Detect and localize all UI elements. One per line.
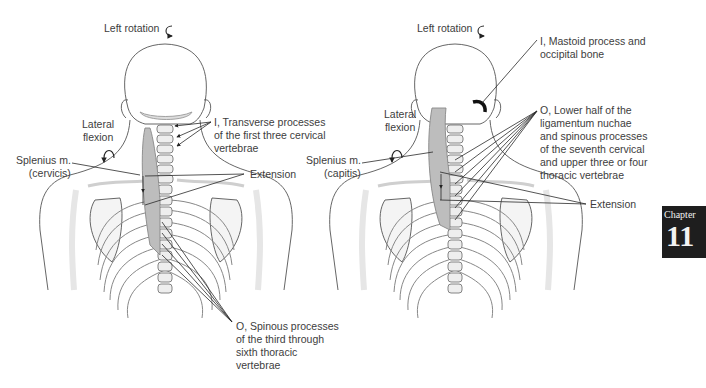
left-origin-label: O, Spinous processes of the third throug…	[236, 320, 339, 372]
curved-arrow-icon	[478, 26, 484, 36]
left-insertion-label: I, Transverse processes of the first thr…	[214, 116, 325, 155]
curved-arrow-icon	[166, 26, 172, 36]
left-figure	[40, 44, 293, 318]
splenius-capitis-muscle	[429, 108, 450, 230]
right-insertion-label: I, Mastoid process and occipital bone	[540, 35, 646, 61]
right-extension-label: Extension	[590, 198, 636, 211]
right-origin-label: O, Lower half of the ligamentum nuchae a…	[540, 104, 647, 182]
chapter-badge: Chapter 11	[662, 206, 706, 258]
left-extension-label: Extension	[250, 168, 296, 181]
left-lateral-flexion-label: Lateral flexion	[82, 118, 114, 144]
right-rotation-label: Left rotation	[417, 22, 472, 35]
chapter-number: 11	[662, 220, 706, 252]
chapter-label: Chapter	[662, 206, 706, 220]
left-muscle-label: Splenius m. (cervicis)	[16, 154, 71, 180]
right-muscle-label: Splenius m. (capitis)	[306, 154, 361, 180]
left-rotation-label: Left rotation	[104, 22, 159, 35]
right-lateral-flexion-label: Lateral flexion	[384, 108, 416, 134]
